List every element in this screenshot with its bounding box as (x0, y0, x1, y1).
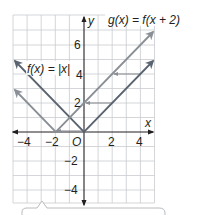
y-tick-m2: −2 (64, 154, 78, 168)
x-axis-label: x (144, 116, 152, 130)
origin-label: O (72, 135, 81, 149)
y-tick-m4: −4 (64, 183, 78, 197)
y-tick-4: 4 (76, 68, 83, 82)
f-label: f(x) = |x| (27, 62, 70, 76)
y-tick-6: 6 (74, 38, 81, 52)
y-axis-label: y (87, 14, 95, 28)
x-tick-m2: −2 (45, 135, 59, 149)
g-label: g(x) = f(x + 2) (108, 13, 180, 27)
y-tick-2: 2 (74, 96, 81, 110)
x-tick-m4: −4 (17, 135, 31, 149)
x-tick-2: 2 (108, 135, 115, 149)
graph: f(x) = |x| g(x) = f(x + 2) y x O −4 −2 2… (0, 0, 198, 215)
x-tick-4: 4 (136, 135, 143, 149)
